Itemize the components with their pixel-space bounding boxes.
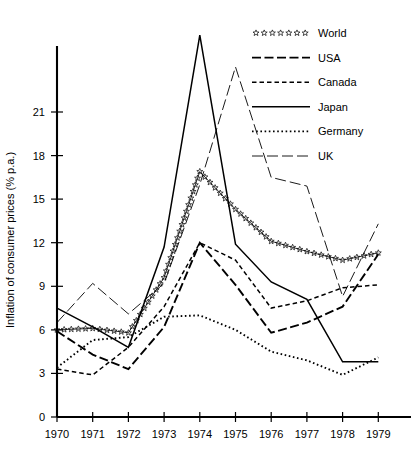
inflation-line-chart: Inflation of consumer prices (% p.a.) 0 …: [0, 0, 417, 454]
x-tick-label: 1979: [366, 428, 390, 440]
x-tick-label: 1976: [259, 428, 283, 440]
chart-background: [0, 0, 417, 454]
x-tick-label: 1970: [45, 428, 69, 440]
legend-label: World: [318, 27, 347, 39]
y-tick-label: 6: [39, 324, 45, 336]
legend-label: USA: [318, 52, 341, 64]
x-tick-label: 1975: [223, 428, 247, 440]
legend-label: UK: [318, 150, 334, 162]
y-tick-label: 18: [33, 150, 45, 162]
legend-label: Japan: [318, 101, 348, 113]
y-axis-title: Inflation of consumer prices (% p.a.): [4, 152, 16, 328]
y-tick-label: 21: [33, 106, 45, 118]
x-tick-label: 1972: [116, 428, 140, 440]
x-tick-label: 1974: [188, 428, 212, 440]
legend-label: Canada: [318, 76, 357, 88]
x-tick-label: 1978: [330, 428, 354, 440]
y-tick-label: 15: [33, 193, 45, 205]
x-tick-label: 1973: [152, 428, 176, 440]
y-tick-label: 9: [39, 280, 45, 292]
chart-canvas: Inflation of consumer prices (% p.a.) 0 …: [0, 0, 417, 454]
y-tick-label: 3: [39, 367, 45, 379]
x-tick-label: 1977: [295, 428, 319, 440]
y-tick-label: 0: [39, 411, 45, 423]
y-tick-label: 12: [33, 237, 45, 249]
y-axis-title-text: Inflation of consumer prices (% p.a.): [4, 152, 16, 328]
x-tick-label: 1971: [80, 428, 104, 440]
legend-label: Germany: [318, 125, 364, 137]
